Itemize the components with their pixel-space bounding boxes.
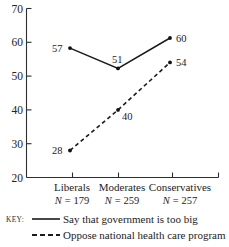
legend-entry-oppose-health-care: Oppose national health care program xyxy=(32,229,226,241)
data-label-54: 54 xyxy=(176,57,187,68)
category-labels: Liberals Moderates Conservatives xyxy=(54,181,211,193)
x-axis xyxy=(27,173,219,178)
legend-entry-government-too-big: Say that government is too big xyxy=(32,213,198,225)
category-label-liberals: Liberals xyxy=(54,181,90,193)
y-tick-label-50: 50 xyxy=(12,70,24,82)
data-point-moderates-51 xyxy=(116,67,120,71)
n-value-liberals: 179 xyxy=(74,195,90,206)
y-tick-label-70: 70 xyxy=(12,3,24,15)
chart-figure: 70 60 50 40 30 20 57 51 60 xyxy=(0,0,229,247)
legend-title: KEY: xyxy=(6,215,24,224)
data-point-conservatives-60 xyxy=(168,36,172,40)
chart-legend: KEY: Say that government is too big Oppo… xyxy=(6,213,226,241)
sample-size-labels: N=179 N=259 N=257 xyxy=(54,195,198,206)
series-oppose-health-care: 28 40 54 xyxy=(52,57,187,157)
legend-label-government-too-big: Say that government is too big xyxy=(63,213,198,225)
data-label-51: 51 xyxy=(112,54,123,65)
n-value-conservatives: 257 xyxy=(182,195,198,206)
line-chart: 70 60 50 40 30 20 57 51 60 xyxy=(0,0,229,247)
n-equals-moderates: = xyxy=(115,195,121,206)
n-label-moderates: N=259 xyxy=(104,195,140,206)
category-label-moderates: Moderates xyxy=(99,181,145,193)
n-symbol-moderates: N xyxy=(104,195,113,206)
n-symbol-conservatives: N xyxy=(162,195,171,206)
y-tick-label-30: 30 xyxy=(12,138,24,150)
n-label-liberals: N=179 xyxy=(54,195,90,206)
category-label-conservatives: Conservatives xyxy=(149,181,211,193)
n-value-moderates: 259 xyxy=(124,195,140,206)
n-label-conservatives: N=257 xyxy=(162,195,198,206)
legend-label-oppose-health-care: Oppose national health care program xyxy=(63,229,226,241)
y-tick-label-20: 20 xyxy=(12,172,24,184)
data-point-moderates-40 xyxy=(116,108,120,112)
data-point-liberals-28 xyxy=(68,149,72,153)
n-equals-liberals: = xyxy=(65,195,71,206)
series-dashed-line xyxy=(70,62,170,150)
n-equals-conservatives: = xyxy=(173,195,179,206)
data-label-60: 60 xyxy=(176,33,187,44)
data-point-conservatives-54 xyxy=(168,61,172,65)
series-government-too-big: 57 51 60 xyxy=(52,33,187,71)
y-tick-label-40: 40 xyxy=(12,104,24,116)
data-label-40: 40 xyxy=(122,111,133,122)
data-label-28: 28 xyxy=(52,145,63,156)
y-tick-label-60: 60 xyxy=(12,36,24,48)
data-label-57: 57 xyxy=(52,43,63,54)
data-point-liberals-57 xyxy=(68,46,72,50)
y-axis: 70 60 50 40 30 20 xyxy=(12,3,32,184)
n-symbol-liberals: N xyxy=(54,195,63,206)
